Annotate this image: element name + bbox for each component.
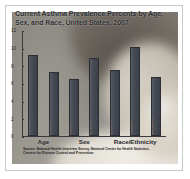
group-label: Age [37,138,49,145]
bar[interactable]: Male 6.5% [69,79,79,136]
group-label: Sex [79,138,90,145]
y-axis-tick: 6 [11,84,22,85]
bar[interactable]: Adult 7.3% [49,72,59,136]
plot-area: 024681012 Child 9.3%Adult 7.3%Male 6.5%F… [22,31,166,137]
y-axis-tick: 4 [11,102,22,103]
y-axis-tick: 10 [11,49,22,50]
y-axis-tick: 0 [11,137,22,138]
y-axis-tick: 8 [11,66,22,67]
bar-slot: White 7.6% [109,31,120,136]
bar-value-label: Male 6.5% [69,122,74,136]
y-axis-tick-label: 10 [11,46,16,51]
bar-value-label: Adult 7.3% [49,122,54,136]
bar[interactable]: Black 10.2% [130,47,140,136]
bar[interactable]: Child 9.3% [28,55,38,136]
x-axis-line [22,136,166,137]
bar-value-label: Female 8.9% [89,120,94,136]
bar-slot: Child 9.3% [28,31,39,136]
y-axis-tick-label: 6 [11,82,14,87]
bar-slot: Female 8.9% [89,31,100,136]
y-axis-tick-label: 8 [11,64,14,69]
bar-slot: Male 6.5% [69,31,80,136]
bar-value-label: White 7.6% [110,121,115,136]
y-axis-tick-label: 2 [11,117,14,122]
chart-title: Current Asthma Prevalence Percents by Ag… [15,10,165,27]
bar-series: Child 9.3%Adult 7.3%Male 6.5%Female 8.9%… [23,31,166,136]
y-axis-tick-label: 0 [11,135,14,140]
bar-slot: Hispanic 6.8% [150,31,161,136]
y-axis-tick: 2 [11,119,22,120]
bar[interactable]: White 7.6% [110,70,120,137]
group-labels: AgeSexRace/Ethnicity [22,138,166,147]
bar[interactable]: Female 8.9% [89,58,99,136]
bar-slot: Black 10.2% [130,31,141,136]
bar[interactable]: Hispanic 6.8% [151,77,161,137]
bar-value-label: Black 10.2% [130,120,135,136]
bar-slot: Adult 7.3% [48,31,59,136]
y-axis-tick: 12 [11,31,22,32]
bar-value-label: Child 9.3% [28,122,33,136]
source-note: Source: National Health Interview Survey… [23,147,151,156]
bar-value-label: Hispanic 6.8% [151,118,156,136]
figure-frame: Current Asthma Prevalence Percents by Ag… [5,5,183,171]
y-axis-tick-label: 12 [11,29,16,34]
group-label: Race/Ethnicity [114,138,157,145]
y-axis-tick-label: 4 [11,99,14,104]
